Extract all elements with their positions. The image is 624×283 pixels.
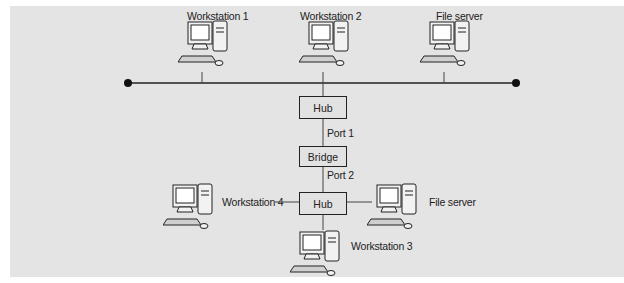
workstation-2-label: Workstation 2 xyxy=(300,10,361,22)
workstation-4-label: Workstation 4 xyxy=(222,196,283,208)
workstation-2-computer-icon xyxy=(299,18,357,70)
port-2-label: Port 2 xyxy=(327,169,354,181)
workstation-3-label: Workstation 3 xyxy=(351,240,412,252)
bridge-device: Bridge xyxy=(299,146,347,167)
workstation-1-computer-icon xyxy=(178,18,236,70)
workstation-4-computer-icon xyxy=(163,181,221,233)
bridge-label: Bridge xyxy=(308,151,338,163)
hub-bottom-device: Hub xyxy=(299,192,347,215)
file-server-bottom-label: File server xyxy=(429,196,476,208)
file-server-top-computer-icon xyxy=(420,18,478,70)
workstation-3-computer-icon xyxy=(290,228,348,280)
hub-top-device: Hub xyxy=(299,96,347,119)
hub-top-label: Hub xyxy=(313,102,332,114)
hub-bottom-label: Hub xyxy=(313,198,332,210)
workstation-1-label: Workstation 1 xyxy=(187,10,248,22)
port-1-label: Port 1 xyxy=(327,127,354,139)
file-server-top-label: File server xyxy=(436,10,483,22)
file-server-bottom-computer-icon xyxy=(367,181,425,233)
